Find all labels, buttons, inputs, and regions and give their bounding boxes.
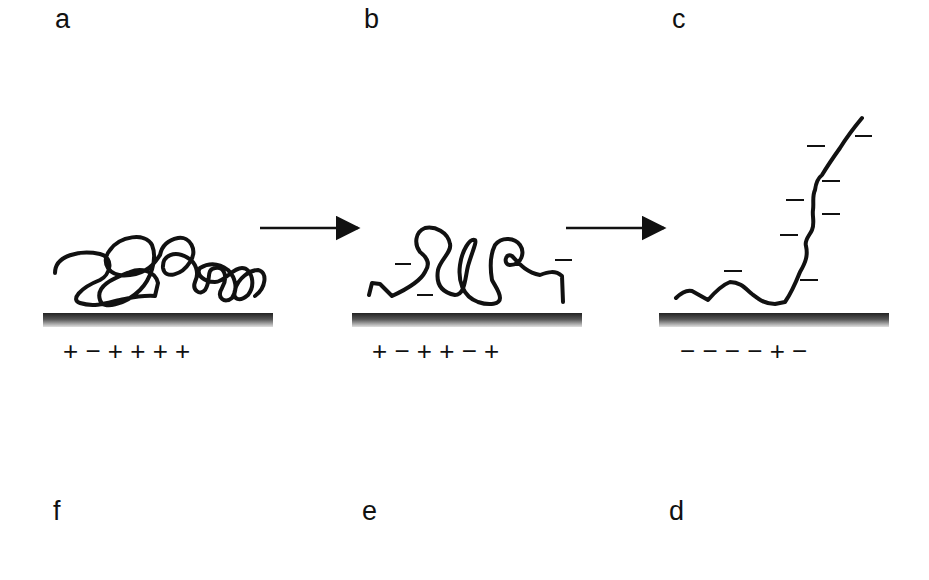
- panel-c: − − − − + −: [659, 118, 889, 366]
- polymer-coil-a: [55, 237, 264, 305]
- diagram-canvas: + − + + + + + − + + − + − − − − + −: [0, 0, 929, 580]
- polymer-loops-b: [369, 228, 563, 304]
- surface-charges-b: + − + + − +: [372, 336, 499, 366]
- polymer-extended-c: [676, 118, 862, 304]
- panel-a: + − + + + +: [43, 237, 273, 366]
- surface-b: [352, 313, 582, 327]
- panel-b: + − + + − +: [352, 228, 582, 366]
- surface-charges-a: + − + + + +: [63, 336, 190, 366]
- surface-c: [659, 313, 889, 327]
- polymer-charges-c: [724, 136, 872, 280]
- surface-charges-c: − − − − + −: [680, 336, 807, 366]
- surface-a: [43, 313, 273, 327]
